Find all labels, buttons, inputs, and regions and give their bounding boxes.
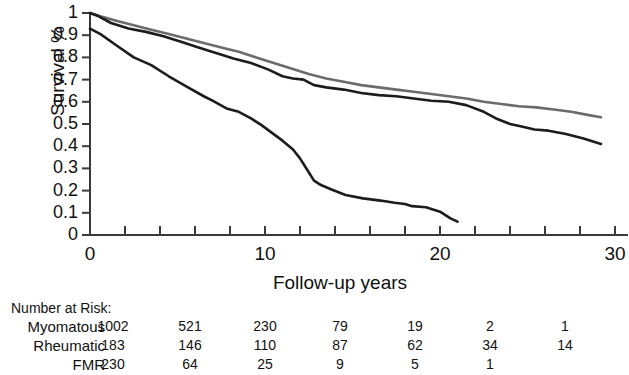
x-tick-label: 20 — [410, 243, 470, 265]
curve-fmr — [90, 29, 458, 222]
risk-cell: 110 — [245, 337, 285, 353]
risk-row-label: FMR — [0, 356, 105, 373]
y-tick-label: 0.8 — [8, 46, 78, 67]
risk-cell: 62 — [395, 337, 435, 353]
risk-row-label: Rheumatic — [0, 337, 105, 354]
x-axis-ticks — [90, 226, 615, 235]
risk-cell: 14 — [545, 337, 585, 353]
risk-cell: 5 — [395, 356, 435, 372]
y-tick-label: 0 — [8, 224, 78, 245]
risk-cell: 2 — [470, 318, 510, 334]
risk-cell: 230 — [93, 356, 133, 372]
x-axis-title: Follow-up years — [190, 272, 490, 294]
risk-cell: 19 — [395, 318, 435, 334]
survival-curves — [90, 13, 601, 222]
risk-cell: 9 — [320, 356, 360, 372]
y-tick-label: 0.3 — [8, 157, 78, 178]
y-tick-label: 0.5 — [8, 113, 78, 134]
y-axis-ticks — [82, 13, 90, 235]
x-tick-label: 10 — [235, 243, 295, 265]
risk-cell: 64 — [170, 356, 210, 372]
y-tick-label: 0.6 — [8, 91, 78, 112]
y-tick-label: 0.4 — [8, 135, 78, 156]
y-tick-label: 0.9 — [8, 24, 78, 45]
y-tick-label: 1 — [8, 2, 78, 23]
risk-cell: 34 — [470, 337, 510, 353]
risk-row-label: Myomatous — [0, 318, 105, 335]
curve-rheumatic — [90, 13, 601, 117]
x-tick-label: 30 — [585, 243, 629, 265]
risk-cell: 183 — [93, 337, 133, 353]
risk-cell: 521 — [170, 318, 210, 334]
risk-cell: 146 — [170, 337, 210, 353]
risk-cell: 1 — [545, 318, 585, 334]
risk-cell: 79 — [320, 318, 360, 334]
survival-curve-figure: Survival % 00.10.20.30.40.50.60.70.80.91… — [0, 0, 629, 375]
plot-area — [0, 0, 629, 260]
y-tick-label: 0.2 — [8, 180, 78, 201]
risk-cell: 87 — [320, 337, 360, 353]
risk-cell: 1 — [470, 356, 510, 372]
y-tick-label: 0.1 — [8, 202, 78, 223]
risk-cell: 1002 — [93, 318, 133, 334]
x-tick-label: 0 — [60, 243, 120, 265]
risk-cell: 230 — [245, 318, 285, 334]
risk-cell: 25 — [245, 356, 285, 372]
risk-table-heading: Number at Risk: — [11, 300, 111, 316]
y-tick-label: 0.7 — [8, 69, 78, 90]
